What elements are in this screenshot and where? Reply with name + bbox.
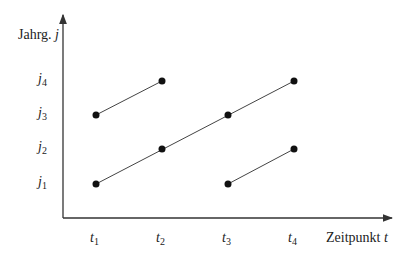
segment-0 <box>96 81 162 115</box>
diagram-canvas <box>0 0 413 255</box>
point-t3-j1 <box>225 181 232 188</box>
point-t4-j2 <box>291 146 298 153</box>
y-axis-label-text: Jahrg. <box>18 27 52 42</box>
point-t2-j2 <box>159 146 166 153</box>
y-axis-label-var: j <box>55 27 59 42</box>
segment-1 <box>96 81 294 184</box>
y-tick-j3: j3 <box>38 106 47 122</box>
point-t4-j4 <box>291 78 298 85</box>
y-tick-j2: j2 <box>38 140 47 156</box>
segments <box>96 81 294 184</box>
point-t3-j3 <box>225 112 232 119</box>
y-tick-j4: j4 <box>38 72 47 88</box>
x-axis-label: Zeitpunkt t <box>326 231 388 245</box>
x-tick-t1: t1 <box>90 231 99 247</box>
x-tick-t2: t2 <box>156 231 165 247</box>
y-axis-label: Jahrg. j <box>18 28 59 42</box>
x-tick-t4: t4 <box>288 231 297 247</box>
x-tick-t3: t3 <box>222 231 231 247</box>
point-t2-j4 <box>159 78 166 85</box>
cohort-diagram: Jahrg. j Zeitpunkt t j4j3j2j1t1t2t3t4 <box>0 0 413 255</box>
x-axis-label-var: t <box>384 230 388 245</box>
x-axis-label-text: Zeitpunkt <box>326 230 380 245</box>
point-t1-j1 <box>93 181 100 188</box>
segment-2 <box>228 149 294 184</box>
y-tick-j1: j1 <box>38 175 47 191</box>
point-t1-j3 <box>93 112 100 119</box>
